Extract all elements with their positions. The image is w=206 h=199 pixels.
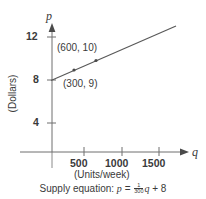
y-axis-variable-label: p	[46, 10, 52, 22]
equation-fraction: 1300	[134, 183, 143, 196]
x-tick-label-1500: 1500	[142, 158, 165, 169]
y-axis-title: (Dollars)	[7, 57, 18, 131]
y-tick-label-8: 8	[33, 74, 39, 85]
annotation-point-600-10: (600, 10)	[57, 43, 97, 53]
equation-fraction-denominator: 300	[134, 188, 143, 195]
y-axis	[49, 23, 56, 168]
x-tick-label-500: 500	[70, 158, 88, 169]
data-point-300-9	[72, 68, 75, 71]
equation-equals: =	[122, 183, 133, 194]
x-axis-title: (Units/week)	[74, 170, 130, 180]
data-point-600-10	[94, 59, 97, 62]
equation-prefix: Supply equation:	[40, 183, 117, 194]
x-tick-label-1000: 1000	[105, 158, 128, 169]
x-axis-arrowhead	[180, 149, 189, 156]
supply-line	[51, 26, 176, 81]
x-axis	[20, 149, 189, 156]
equation-suffix: + 8	[149, 183, 166, 194]
x-axis-variable-label: q	[192, 146, 198, 158]
supply-equation-caption: Supply equation: p = 1300q + 8	[0, 183, 206, 196]
y-tick-label-4: 4	[33, 117, 39, 128]
y-tick-label-12: 12	[26, 31, 38, 42]
annotation-point-300-9: (300, 9)	[63, 79, 97, 89]
y-axis-arrowhead	[49, 23, 56, 32]
